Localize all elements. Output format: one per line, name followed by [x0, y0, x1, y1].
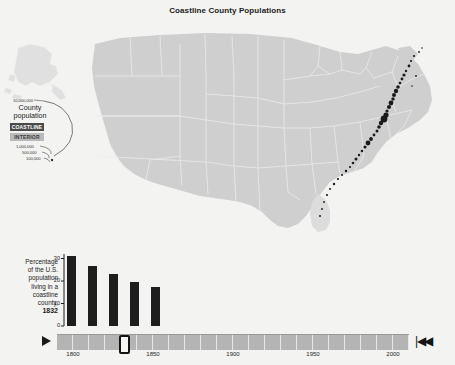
bar [67, 256, 76, 326]
bar [151, 287, 160, 326]
legend-chip-coastline[interactable]: COASTLINE [10, 123, 44, 131]
timeline-segment[interactable] [313, 335, 329, 350]
y-tick-label: 10 [48, 300, 60, 306]
timeline-segment[interactable] [73, 335, 89, 350]
timeline-segment[interactable] [137, 335, 153, 350]
timeline-tick-label: 2000 [378, 351, 408, 357]
timeline-segment[interactable] [393, 335, 409, 350]
timeline-tick-label: 1900 [218, 351, 248, 357]
legend-scale-value-2: 500,000 [22, 150, 36, 155]
timeline-track[interactable] [57, 334, 409, 350]
y-tick-label: 20 [48, 277, 60, 283]
timeline-segment[interactable] [153, 335, 169, 350]
timeline-tick-label: 1850 [138, 351, 168, 357]
timeline-control[interactable]: 18001850190019502000 |◀◀ [0, 332, 455, 365]
map-legend: 10,000,000 County population COASTLINE I… [4, 96, 80, 172]
bar [88, 266, 97, 326]
timeline-segment[interactable] [217, 335, 233, 350]
timeline-segment[interactable] [265, 335, 281, 350]
play-icon[interactable] [42, 336, 51, 346]
timeline-segment[interactable] [281, 335, 297, 350]
timeline-tick-label: 1800 [58, 351, 88, 357]
legend-scale-value-1: 1,000,000 [16, 144, 34, 149]
rewind-to-start-icon[interactable]: |◀◀ [415, 334, 445, 349]
screenshot-root: Coastline County Populations [0, 0, 455, 365]
timeline-segment[interactable] [249, 335, 265, 350]
page-title: Coastline County Populations [0, 6, 455, 15]
timeline-segment[interactable] [329, 335, 345, 350]
timeline-slider-handle[interactable] [119, 335, 130, 354]
timeline-tick-label: 1950 [298, 351, 328, 357]
timeline-segment[interactable] [377, 335, 393, 350]
timeline-segment[interactable] [201, 335, 217, 350]
timeline-segment[interactable] [57, 335, 73, 350]
timeline-segment[interactable] [345, 335, 361, 350]
alaska-inset [4, 44, 66, 100]
legend-chip-interior[interactable]: INTERIOR [10, 133, 44, 141]
bar [130, 282, 139, 326]
timeline-segment[interactable] [297, 335, 313, 350]
timeline-segment[interactable] [233, 335, 249, 350]
bar-chart: Percentage of the U.S. population living… [0, 250, 455, 332]
timeline-segment[interactable] [169, 335, 185, 350]
bar [109, 274, 118, 326]
legend-title: County population [8, 104, 52, 121]
legend-scale-value-3: 100,000 [26, 156, 40, 161]
timeline-segment[interactable] [185, 335, 201, 350]
y-tick-label: 30 [48, 255, 60, 261]
lower-48-states[interactable] [92, 33, 432, 232]
timeline-segment[interactable] [89, 335, 105, 350]
timeline-segment[interactable] [361, 335, 377, 350]
y-tick-label: 0 [48, 322, 60, 328]
